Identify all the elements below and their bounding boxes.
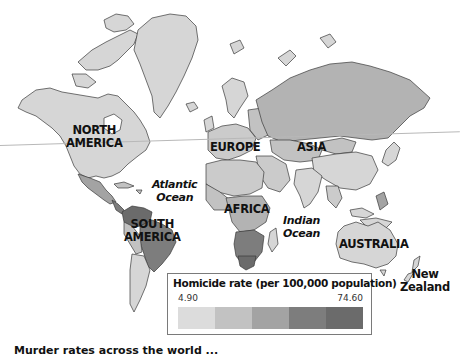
label-indian-line1: Indian bbox=[283, 214, 320, 227]
label-australia-text: AUSTRALIA bbox=[339, 237, 409, 251]
argentina-chile bbox=[130, 254, 150, 312]
legend-max-label: 74.60 bbox=[337, 293, 363, 303]
legend-bin-5 bbox=[326, 307, 363, 329]
legend-bin-3 bbox=[252, 307, 289, 329]
caption-partial: Murder rates across the world ... bbox=[14, 344, 218, 357]
russia bbox=[256, 62, 430, 142]
uk bbox=[204, 116, 214, 132]
legend-title: Homicide rate (per 100,000 population) bbox=[173, 277, 397, 289]
label-europe: EUROPE bbox=[210, 141, 260, 154]
label-north-america: NORTH AMERICA bbox=[66, 124, 123, 150]
south-africa bbox=[238, 256, 256, 270]
legend-color-scale bbox=[178, 307, 363, 329]
label-atlantic-ocean: Atlantic Ocean bbox=[152, 178, 197, 204]
legend-bin-1 bbox=[178, 307, 215, 329]
label-europe-text: EUROPE bbox=[210, 140, 260, 154]
canadian-arctic-islands bbox=[78, 30, 138, 70]
label-atlantic-line1: Atlantic bbox=[152, 178, 197, 191]
label-asia: ASIA bbox=[297, 141, 326, 154]
india bbox=[294, 168, 322, 208]
mexico bbox=[78, 174, 116, 204]
label-africa-text: AFRICA bbox=[224, 202, 269, 216]
japan bbox=[382, 142, 400, 166]
legend-min-label: 4.90 bbox=[178, 293, 198, 303]
label-indian-line2: Ocean bbox=[283, 227, 320, 240]
legend-bin-2 bbox=[215, 307, 252, 329]
label-new-zealand-line2: Zealand bbox=[400, 281, 450, 294]
label-australia: AUSTRALIA bbox=[339, 238, 409, 251]
label-asia-text: ASIA bbox=[297, 140, 326, 154]
greenland bbox=[134, 14, 198, 118]
label-south-america-line2: AMERICA bbox=[124, 231, 181, 244]
label-atlantic-line2: Ocean bbox=[152, 191, 197, 204]
label-new-zealand: New Zealand bbox=[400, 268, 450, 294]
label-south-america: SOUTH AMERICA bbox=[124, 218, 181, 244]
label-north-america-line2: AMERICA bbox=[66, 137, 123, 150]
scandinavia bbox=[222, 78, 248, 118]
legend: Homicide rate (per 100,000 population) 4… bbox=[167, 273, 372, 335]
china bbox=[312, 152, 378, 190]
label-indian-ocean: Indian Ocean bbox=[283, 214, 320, 240]
legend-bin-4 bbox=[289, 307, 326, 329]
label-africa: AFRICA bbox=[224, 203, 269, 216]
